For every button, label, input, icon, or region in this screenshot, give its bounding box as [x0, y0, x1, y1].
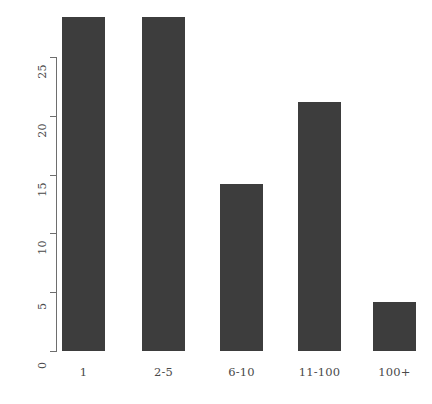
x-tick-label: 6-10 [202, 365, 281, 379]
y-tick-label: 15 [36, 174, 49, 204]
bar-chart: 0510152025 12-56-1011-100100+ [0, 0, 432, 404]
y-tick-mark [50, 292, 56, 293]
y-tick-label: 5 [36, 292, 49, 322]
bar [142, 17, 185, 351]
y-tick-mark [50, 233, 56, 234]
y-tick-mark [50, 116, 56, 117]
bar [220, 184, 263, 351]
y-axis-line [56, 57, 57, 352]
y-tick-mark [50, 351, 56, 352]
bar [373, 302, 416, 351]
y-tick-mark [50, 57, 56, 58]
y-tick-label: 10 [36, 233, 49, 263]
x-tick-label: 100+ [355, 365, 432, 379]
x-tick-label: 1 [44, 365, 123, 379]
y-tick-label: 20 [36, 115, 49, 145]
y-tick-label: 25 [36, 57, 49, 87]
plot-area: 0510152025 12-56-1011-100100+ [0, 0, 432, 404]
bar [62, 17, 105, 351]
x-tick-label: 2-5 [124, 365, 203, 379]
bar [298, 102, 341, 351]
y-tick-mark [50, 175, 56, 176]
x-tick-label: 11-100 [280, 365, 359, 379]
